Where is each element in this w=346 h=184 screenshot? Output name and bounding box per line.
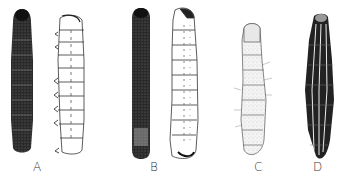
larva-a-lateral: [54, 15, 84, 154]
larva-b-lateral: [170, 8, 198, 158]
larva-b-dorsal: [132, 8, 150, 159]
panel-label-d: D: [313, 160, 322, 174]
panel-label-a: A: [33, 160, 41, 174]
panel-label-c: C: [254, 160, 262, 174]
panel-label-b: B: [150, 160, 158, 174]
larvae-illustration: [0, 0, 346, 184]
larva-d-dorsal: [305, 14, 334, 159]
larva-c-lateral: [234, 24, 272, 155]
larva-a-dorsal: [11, 9, 33, 153]
